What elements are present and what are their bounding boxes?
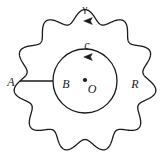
annulus-diagram-svg <box>0 0 166 160</box>
label-gamma: γ <box>83 3 88 14</box>
label-c: c <box>84 39 89 51</box>
label-B: B <box>62 78 69 90</box>
figure-container: γ c A B O R <box>0 0 166 160</box>
label-A: A <box>7 76 14 88</box>
gamma-direction-arrowhead <box>84 18 93 25</box>
center-point-dot-O <box>83 78 87 82</box>
c-direction-arrowhead <box>84 54 93 61</box>
label-O: O <box>88 83 97 95</box>
label-R: R <box>131 78 138 90</box>
